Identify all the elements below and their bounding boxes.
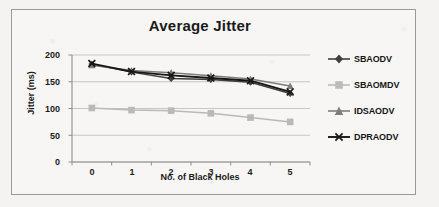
legend-item-idsaodv[interactable]: IDSAODV — [327, 98, 431, 124]
legend-item-sbaomdv[interactable]: SBAOMDV — [327, 72, 431, 98]
axis-lines — [69, 55, 311, 166]
chart-screenshot: Average Jitter 200 150 100 50 0 0 1 2 3 … — [0, 0, 439, 207]
legend-marker-cross-icon — [327, 130, 351, 144]
legend-marker-square-icon — [327, 78, 351, 92]
series-sbaomdv — [89, 105, 294, 126]
legend-marker-triangle-icon — [327, 104, 351, 118]
chart-legend: SBAODV SBAOMDV IDSAODV DPRAODV — [327, 46, 431, 150]
series-dpraodv — [88, 60, 293, 95]
series-sbaodv — [88, 61, 293, 97]
legend-label-sbaomdv: SBAOMDV — [354, 80, 399, 90]
legend-label-sbaodv: SBAODV — [354, 54, 392, 64]
legend-item-sbaodv[interactable]: SBAODV — [327, 46, 431, 72]
legend-marker-diamond-icon — [327, 52, 351, 66]
series-layer — [88, 60, 294, 125]
legend-item-dpraodv[interactable]: DPRAODV — [327, 124, 431, 150]
legend-label-dpraodv: DPRAODV — [354, 132, 398, 142]
legend-label-idsaodv: IDSAODV — [354, 106, 394, 116]
